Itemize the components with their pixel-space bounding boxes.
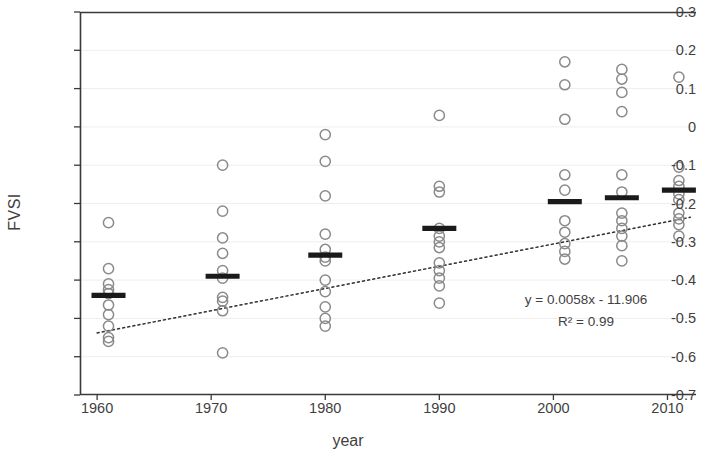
data-point xyxy=(560,185,570,195)
data-point xyxy=(434,281,444,291)
data-point xyxy=(560,114,570,124)
axis-ticks xyxy=(74,12,667,400)
y-tick-label: -0.3 xyxy=(650,234,696,250)
data-point xyxy=(320,302,330,312)
x-tick-label: 1980 xyxy=(290,400,360,416)
data-point xyxy=(320,286,330,296)
data-point xyxy=(103,300,113,310)
data-point xyxy=(434,298,444,308)
data-point xyxy=(320,129,330,139)
y-axis-label: FVSI xyxy=(6,169,24,255)
data-point xyxy=(103,264,113,274)
x-tick-label: 1960 xyxy=(62,400,132,416)
y-tick-label: -0.6 xyxy=(650,349,696,365)
data-point xyxy=(617,170,627,180)
data-point xyxy=(320,229,330,239)
data-point xyxy=(560,216,570,226)
data-point xyxy=(560,254,570,264)
x-tick-label: 2000 xyxy=(518,400,588,416)
y-axis-label-container: FVSI xyxy=(0,165,30,265)
y-tick-label: 0.2 xyxy=(650,42,696,58)
data-point xyxy=(617,231,627,241)
data-point xyxy=(217,206,227,216)
data-point xyxy=(103,321,113,331)
gridlines xyxy=(80,50,696,356)
y-tick-label: 0 xyxy=(650,119,696,135)
x-tick-label: 1970 xyxy=(176,400,246,416)
data-points xyxy=(103,57,684,358)
y-tick-label: 0.1 xyxy=(650,81,696,97)
data-point xyxy=(560,227,570,237)
x-tick-label: 1990 xyxy=(404,400,474,416)
x-axis-label: year xyxy=(0,432,696,450)
y-tick-label: -0.4 xyxy=(650,272,696,288)
r-squared-text: R² = 0.99 xyxy=(486,314,686,329)
data-point xyxy=(320,191,330,201)
data-point xyxy=(617,256,627,266)
data-point xyxy=(434,110,444,120)
data-point xyxy=(617,64,627,74)
data-point xyxy=(617,106,627,116)
data-point xyxy=(103,218,113,228)
data-point xyxy=(320,321,330,331)
x-tick-label: 2010 xyxy=(632,400,701,416)
y-tick-label: -0.2 xyxy=(650,196,696,212)
y-tick-label: 0.3 xyxy=(650,4,696,20)
regression-equation-text: y = 0.0058x - 11.906 xyxy=(486,292,686,307)
y-tick-label: -0.1 xyxy=(650,157,696,173)
data-point xyxy=(617,74,627,84)
data-point xyxy=(217,306,227,316)
data-point xyxy=(560,57,570,67)
data-point xyxy=(560,170,570,180)
data-point xyxy=(217,248,227,258)
